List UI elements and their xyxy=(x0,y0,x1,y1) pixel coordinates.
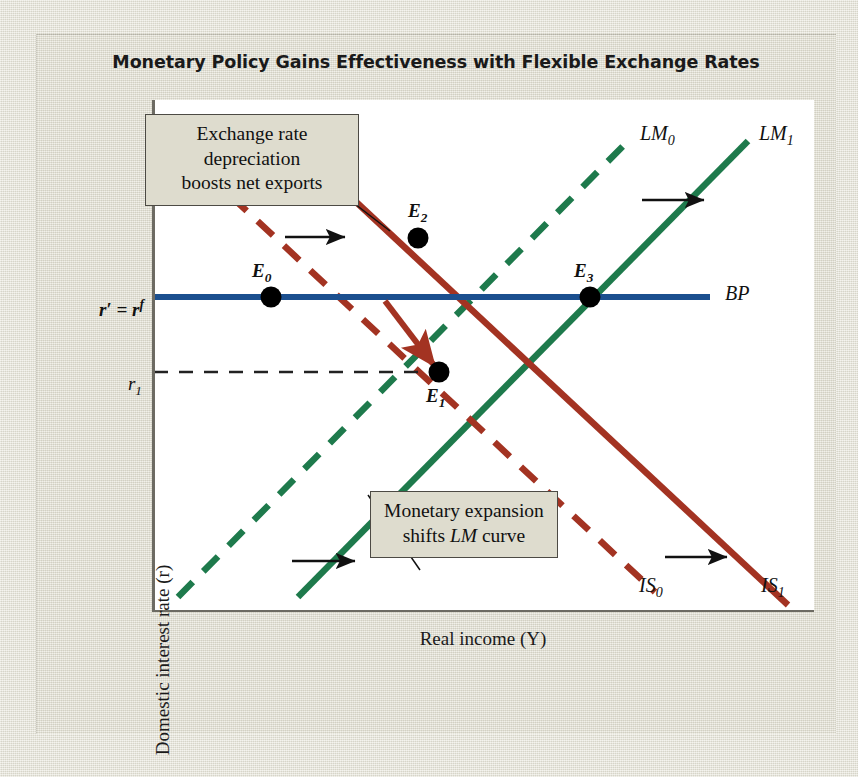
exchange-rate-callout-line1: Exchange rate depreciation xyxy=(156,122,348,171)
is0-label: IS0 xyxy=(639,574,663,601)
e1-label: E1 xyxy=(426,385,445,411)
x-axis-title: Real income (Y) xyxy=(152,628,814,650)
monetary-expansion-callout-line1: Monetary expansion xyxy=(381,499,547,524)
lm-emphasis: LM xyxy=(450,525,477,546)
adjustment-arrow-e0-e1 xyxy=(385,301,433,364)
bp-label: BP xyxy=(725,282,749,305)
is1-label: IS1 xyxy=(761,574,785,601)
monetary-expansion-callout: Monetary expansion shifts LM curve xyxy=(370,491,558,558)
monetary-expansion-callout-line2: shifts LM curve xyxy=(381,524,547,549)
point-e3 xyxy=(580,287,601,308)
point-e1 xyxy=(429,362,450,383)
figure-panel: Monetary Policy Gains Effectiveness with… xyxy=(36,34,836,734)
plot-wrap: r′ = rf r1 Domestic interest rate (r) Re… xyxy=(152,100,814,612)
lm1-label: LM1 xyxy=(759,122,794,149)
y-tick-label-rf: r′ = rf xyxy=(99,297,144,321)
x-axis xyxy=(152,610,814,613)
e3-label: E3 xyxy=(574,260,593,286)
e0-label: E0 xyxy=(252,260,271,286)
lm0-label: LM0 xyxy=(640,122,675,149)
point-e2 xyxy=(408,228,429,249)
exchange-rate-callout: Exchange rate depreciation boosts net ex… xyxy=(145,114,359,206)
y-tick-label-r1: r1 xyxy=(128,373,142,399)
e2-label: E2 xyxy=(408,200,427,226)
point-e0 xyxy=(261,287,282,308)
y-axis-title: Domestic interest rate (r) xyxy=(152,400,174,777)
page-title: Monetary Policy Gains Effectiveness with… xyxy=(36,52,836,72)
leader-line-exchange-callout xyxy=(355,204,390,231)
exchange-rate-callout-line2: boosts net exports xyxy=(156,171,348,196)
